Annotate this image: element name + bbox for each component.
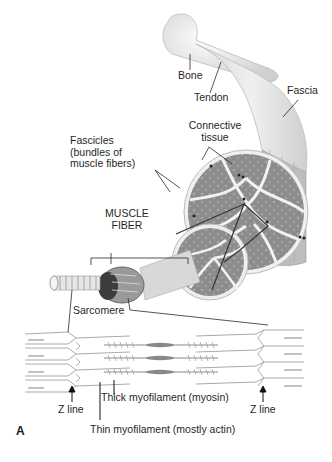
label-fascia: Fascia: [287, 85, 318, 97]
label-thick-myofilament: Thick myofilament (myosin): [101, 392, 229, 404]
sarcomere-diagram: [25, 330, 304, 392]
label-thin-myofilament: Thin myofilament (mostly actin): [90, 424, 235, 436]
label-connective-tissue: Connective tissue: [180, 120, 250, 143]
label-fascicles: Fascicles (bundles of muscle fibers): [70, 135, 135, 170]
label-z-line-left: Z line: [58, 404, 84, 416]
label-z-line-right: Z line: [250, 404, 276, 416]
label-tendon: Tendon: [194, 92, 228, 104]
label-sarcomere: Sarcomere: [73, 305, 124, 317]
label-bone: Bone: [178, 70, 203, 82]
label-muscle-fiber: MUSCLE FIBER: [100, 208, 154, 231]
panel-letter: A: [16, 424, 25, 438]
